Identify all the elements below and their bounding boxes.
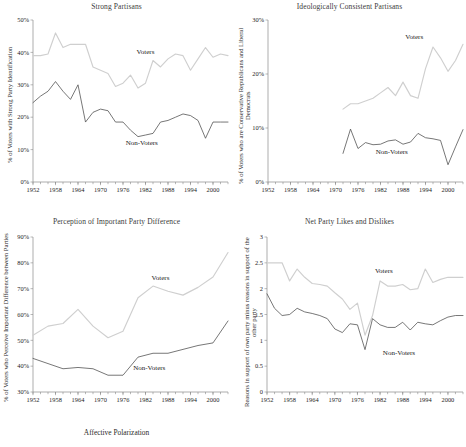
svg-text:1952: 1952 [262, 186, 275, 193]
chart-panel-ideologically-consistent-partisans: Ideologically Consistent Partisans % of … [233, 0, 466, 215]
series-line-non-voters [343, 129, 463, 165]
chart-panel-strong-partisans: Strong Partisans % of Voters with Strong… [0, 0, 233, 215]
panel-title-ideologically-consistent-partisans: Ideologically Consistent Partisans [233, 2, 466, 11]
y-axis-label-net-party-likes-and-dislikes: Reasons in support of own party minus re… [243, 235, 261, 410]
svg-text:1982: 1982 [139, 396, 152, 403]
svg-text:1988: 1988 [397, 186, 410, 193]
figure-grid: Strong Partisans % of Voters with Strong… [0, 0, 466, 447]
series-line-non-voters [33, 321, 228, 375]
chart-panel-perception-of-important-party-difference: Perception of Important Party Difference… [0, 215, 233, 425]
series-label-non-voters: Non-Voters [133, 364, 165, 372]
svg-text:2000: 2000 [442, 186, 455, 193]
series-line-voters [33, 33, 228, 88]
series-label-voters: Voters [405, 33, 423, 41]
series-label-voters: Voters [152, 274, 170, 282]
svg-text:1976: 1976 [351, 396, 364, 403]
svg-text:1988: 1988 [162, 186, 175, 193]
panel-title-strong-partisans: Strong Partisans [0, 2, 233, 11]
svg-text:1976: 1976 [352, 186, 365, 193]
svg-text:1970: 1970 [94, 396, 107, 403]
svg-text:0%: 0% [255, 178, 264, 185]
y-axis-label-ideologically-consistent-partisans: % of Voters who are Conservative Republi… [237, 18, 255, 193]
chart-panel-net-party-likes-and-dislikes: Net Party Likes and Dislikes Reasons in … [233, 215, 466, 425]
svg-text:1976: 1976 [117, 396, 130, 403]
svg-text:1958: 1958 [283, 396, 296, 403]
series-line-non-voters [267, 294, 463, 350]
plot-ideologically-consistent-partisans: 0%10%20%30%19521958196419701976198219881… [233, 0, 466, 215]
plot-strong-partisans: 0%10%20%30%40%50%19521958196419701976198… [0, 0, 233, 215]
y-axis-label-perception-of-important-party-difference: % of Voters who Perceive Important Diffe… [2, 233, 20, 403]
svg-text:1970: 1970 [94, 186, 107, 193]
svg-text:1952: 1952 [261, 396, 274, 403]
panel-title-perception-of-important-party-difference: Perception of Important Party Difference [0, 217, 233, 226]
svg-text:1970: 1970 [328, 396, 341, 403]
series-label-non-voters: Non-Voters [126, 139, 158, 147]
plot-net-party-likes-and-dislikes: 00.511.522.53195219581964197019761982198… [233, 215, 466, 425]
svg-text:1982: 1982 [374, 396, 387, 403]
svg-text:1982: 1982 [374, 186, 387, 193]
svg-text:1994: 1994 [419, 396, 433, 403]
svg-text:1994: 1994 [184, 396, 198, 403]
figure-caption: Affective Polarization [0, 428, 233, 437]
svg-text:20%: 20% [17, 113, 29, 120]
svg-text:1964: 1964 [72, 186, 86, 193]
series-line-voters [343, 44, 463, 109]
svg-text:1958: 1958 [284, 186, 297, 193]
svg-text:2000: 2000 [207, 396, 220, 403]
plot-perception-of-important-party-difference: 30%40%50%60%70%80%90%1952195819641970197… [0, 215, 233, 425]
svg-text:2000: 2000 [442, 396, 455, 403]
series-line-non-voters [33, 82, 228, 139]
panel-title-net-party-likes-and-dislikes: Net Party Likes and Dislikes [233, 217, 466, 226]
svg-text:1994: 1994 [419, 186, 433, 193]
svg-text:1958: 1958 [49, 396, 62, 403]
svg-text:1964: 1964 [306, 396, 320, 403]
series-label-voters: Voters [375, 267, 393, 275]
svg-text:1958: 1958 [49, 186, 62, 193]
series-label-voters: Voters [137, 48, 155, 56]
svg-text:1988: 1988 [396, 396, 409, 403]
svg-text:10%: 10% [17, 146, 29, 153]
svg-text:1964: 1964 [307, 186, 321, 193]
svg-text:2000: 2000 [207, 186, 220, 193]
svg-text:1970: 1970 [329, 186, 342, 193]
svg-text:0%: 0% [20, 178, 29, 185]
y-axis-label-strong-partisans: % of Voters with Strong Party Identifica… [6, 20, 13, 190]
svg-text:1976: 1976 [117, 186, 130, 193]
svg-text:1952: 1952 [27, 186, 40, 193]
svg-text:1994: 1994 [184, 186, 198, 193]
svg-text:1952: 1952 [27, 396, 40, 403]
svg-text:1988: 1988 [162, 396, 175, 403]
svg-text:40%: 40% [17, 49, 29, 56]
svg-text:1964: 1964 [72, 396, 86, 403]
series-label-non-voters: Non-Voters [376, 148, 408, 156]
svg-text:1982: 1982 [139, 186, 152, 193]
svg-text:30%: 30% [17, 81, 29, 88]
series-label-non-voters: Non-Voters [383, 349, 415, 357]
svg-text:50%: 50% [17, 16, 29, 23]
series-line-voters [33, 253, 228, 338]
